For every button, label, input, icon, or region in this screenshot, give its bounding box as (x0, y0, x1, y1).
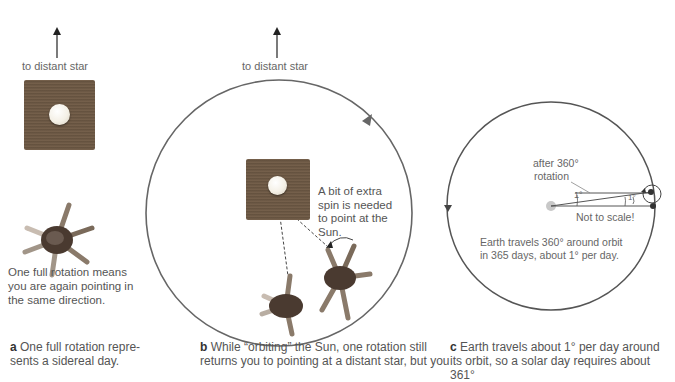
panel-a-note: One full rotation means you are again po… (8, 265, 138, 307)
angle-label-left: 1° (574, 190, 583, 200)
orbit-circle-c (444, 102, 661, 310)
sun-ball (268, 176, 287, 195)
wood-square-b (246, 159, 310, 220)
orbiting-person-figure-1 (262, 276, 303, 334)
orbit-direction-arrow-icon (444, 205, 452, 212)
caption-b: b While “orbiting” the Sun, one rotation… (200, 340, 460, 368)
caption-c: c Earth travels about 1° per day around … (450, 340, 675, 382)
to-distant-star-label-b: to distant star (242, 60, 308, 72)
arrow-up-icon (273, 27, 281, 58)
orbiting-person-figure-2 (322, 246, 370, 318)
wood-square-a (24, 80, 95, 150)
angle-label-right: 1° (628, 193, 636, 202)
earth-dot (648, 189, 654, 195)
to-distant-star-label-a: to distant star (22, 60, 88, 72)
arrow-up-icon (53, 27, 61, 58)
orbit-note: Earth travels 360° around orbit in 365 d… (480, 236, 623, 262)
sun-ball (49, 104, 70, 125)
not-to-scale-label: Not to scale! (576, 211, 634, 223)
after-rotation-label: after 360° rotation (533, 157, 579, 183)
caption-a: a One full rotation repre- sents a sider… (10, 340, 200, 368)
panel-b-note: A bit of extra spin is needed to point a… (318, 185, 398, 239)
earth-dot (650, 203, 656, 209)
orbit-direction-arrow-icon (362, 114, 372, 126)
